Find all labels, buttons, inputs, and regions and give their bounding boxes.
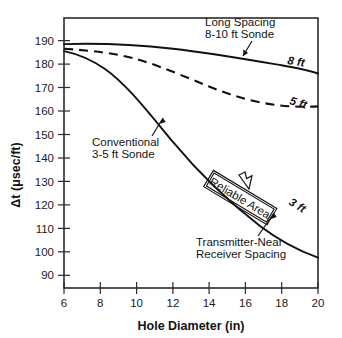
delta-t-vs-hole-diameter-chart: 190 180 170 160 150 140 130 120 110 100 … <box>0 0 342 338</box>
y-tick-label: 180 <box>35 58 54 70</box>
x-tick-label: 16 <box>239 297 252 309</box>
annotation-conventional-line2: 3-5 ft Sonde <box>92 148 155 160</box>
y-tick-label: 160 <box>35 105 54 117</box>
y-tick-label: 140 <box>35 152 54 164</box>
y-tick-label: 190 <box>35 35 54 47</box>
x-tick-label: 6 <box>61 297 67 309</box>
y-tick-label: 110 <box>36 223 54 235</box>
x-tick-label: 10 <box>130 297 143 309</box>
annotation-long-spacing-line2: 8-10 ft Sonde <box>205 28 274 40</box>
y-tick-label: 170 <box>35 82 54 94</box>
x-tick-label: 12 <box>167 297 180 309</box>
y-tick-label: 120 <box>35 199 54 211</box>
x-axis-title: Hole Diameter (in) <box>138 319 245 333</box>
y-tick-label: 90 <box>41 269 54 281</box>
x-tick-label: 20 <box>312 297 325 309</box>
y-tick-label: 100 <box>35 246 54 258</box>
y-tick-label: 150 <box>35 129 54 141</box>
annotation-conventional-line1: Conventional <box>92 136 159 148</box>
x-tick-label: 18 <box>275 297 288 309</box>
y-tick-label: 130 <box>35 176 54 188</box>
annotation-transmitter-line1: Transmitter-Near <box>196 236 283 248</box>
x-tick-label: 8 <box>97 297 103 309</box>
chart-figure: 190 180 170 160 150 140 130 120 110 100 … <box>0 0 342 338</box>
annotation-long-spacing-line1: Long Spacing <box>205 16 275 28</box>
y-axis-title: Δt (μsec/ft) <box>9 142 23 207</box>
annotation-transmitter-line2: Receiver Spacing <box>196 248 286 260</box>
x-tick-label: 14 <box>203 297 216 309</box>
